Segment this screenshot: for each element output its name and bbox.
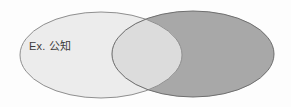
venn-diagram: Ex. 公知 [0, 0, 291, 107]
venn-set-left-ellipse [20, 12, 182, 98]
venn-set-left-label: Ex. 公知 [29, 39, 71, 53]
venn-diagram-canvas [0, 0, 291, 107]
